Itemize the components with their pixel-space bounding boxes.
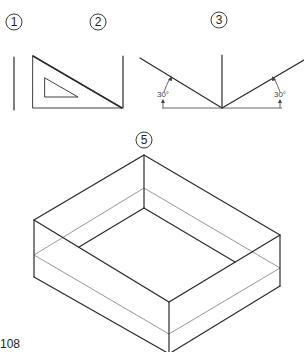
figure-3: 3 30° 30° [140,12,304,108]
construction-line [169,268,280,334]
right-angle-label: 30° [274,90,286,99]
inner-floor-edge [144,208,235,262]
construction-line [34,188,144,255]
page-number: 108 [0,337,20,351]
box-bottom-right-edge [172,286,280,352]
set-square-hypotenuse [33,56,122,108]
construction-line [34,255,169,334]
left-isometric-axis [140,58,222,108]
right-isometric-axis [222,60,304,108]
figure-3-number: 3 [216,13,223,27]
construction-line [144,188,280,268]
figure-5-number: 5 [141,133,148,147]
inner-floor-edge [79,208,144,247]
figure-5: 5 [34,132,280,352]
left-angle-label: 30° [157,90,169,99]
left-angle-arrow-up-icon [161,99,165,103]
box-top-rim [34,155,280,302]
figure-2-number: 2 [95,15,102,29]
figure-1-number: 1 [11,15,18,29]
right-angle-arrow-up-icon [278,99,282,103]
drawing-canvas: 1 2 3 30° 30° 5 [0,0,304,352]
figure-2: 2 [33,14,123,108]
set-square-cutout [45,78,78,97]
figure-1: 1 [6,14,22,110]
